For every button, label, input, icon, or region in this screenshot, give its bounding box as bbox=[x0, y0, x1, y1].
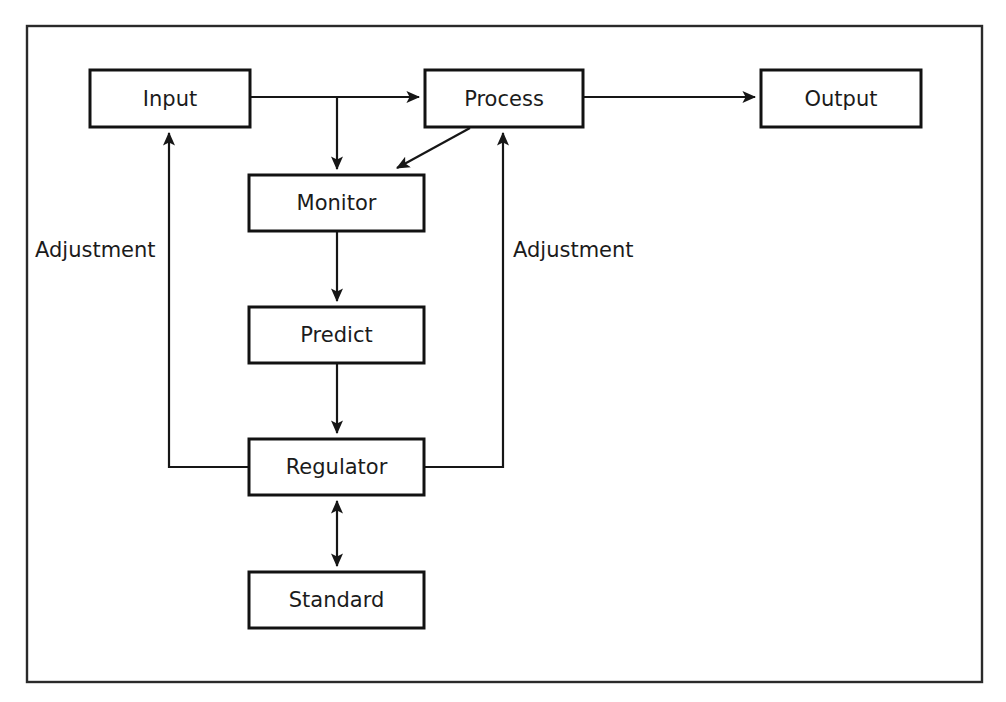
node-label-regulator: Regulator bbox=[286, 455, 388, 479]
node-label-process: Process bbox=[464, 87, 544, 111]
node-label-monitor: Monitor bbox=[297, 191, 377, 215]
node-output[interactable]: Output bbox=[761, 70, 921, 127]
node-label-input: Input bbox=[143, 87, 197, 111]
edge-regulator-to-process-adjustment bbox=[424, 133, 503, 467]
node-label-standard: Standard bbox=[289, 588, 385, 612]
node-predict[interactable]: Predict bbox=[249, 307, 424, 363]
edge-regulator-to-input-adjustment bbox=[169, 133, 249, 467]
node-monitor[interactable]: Monitor bbox=[249, 175, 424, 231]
edge-process-to-monitor bbox=[397, 128, 470, 168]
edge-label-adjustment-right: Adjustment bbox=[513, 238, 634, 262]
node-label-predict: Predict bbox=[300, 323, 372, 347]
node-input[interactable]: Input bbox=[90, 70, 250, 127]
node-label-output: Output bbox=[805, 87, 878, 111]
node-regulator[interactable]: Regulator bbox=[249, 439, 424, 495]
feedback-loop-diagram: Adjustment Adjustment Input Process Outp… bbox=[0, 0, 1006, 702]
node-standard[interactable]: Standard bbox=[249, 572, 424, 628]
diagram-canvas: Adjustment Adjustment Input Process Outp… bbox=[0, 0, 1006, 702]
node-process[interactable]: Process bbox=[425, 70, 583, 127]
edge-labels-layer: Adjustment Adjustment bbox=[35, 238, 634, 262]
edge-label-adjustment-left: Adjustment bbox=[35, 238, 156, 262]
